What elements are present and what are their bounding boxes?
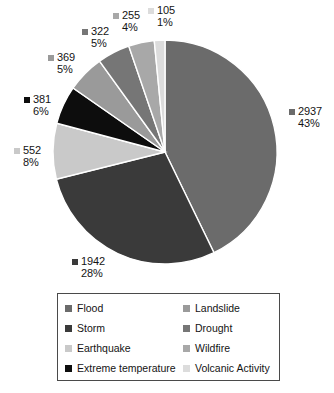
- slice-label-swatch-drought: [82, 29, 88, 35]
- slice-value-earthquake: 552: [23, 145, 41, 157]
- legend-item[interactable]: Flood: [65, 302, 183, 314]
- legend-swatch-icon: [65, 345, 72, 352]
- slice-percent-drought: 5%: [91, 38, 109, 50]
- slice-label-volcanic-activity: 105 1%: [148, 5, 175, 28]
- slice-label-swatch-volcanic-activity: [148, 8, 154, 14]
- chart-legend: FloodLandslideStormDroughtEarthquakeWild…: [57, 293, 280, 381]
- legend-swatch-icon: [183, 365, 190, 372]
- legend-item[interactable]: Volcanic Activity: [183, 362, 288, 374]
- slice-percent-landslide: 5%: [57, 64, 75, 76]
- slice-percent-flood: 43%: [298, 118, 322, 130]
- slice-label-swatch-wildfire: [113, 13, 119, 19]
- slice-label-drought: 322 5%: [82, 26, 109, 49]
- slice-label-landslide: 369 5%: [48, 52, 75, 75]
- slice-label-swatch-extreme-temperature: [24, 97, 30, 103]
- legend-item[interactable]: Earthquake: [65, 342, 183, 354]
- legend-item[interactable]: Drought: [183, 322, 288, 334]
- slice-value-flood: 2937: [298, 106, 322, 118]
- legend-item-label: Earthquake: [77, 342, 131, 354]
- slice-label-extreme-temperature: 381 6%: [24, 94, 51, 117]
- legend-item-label: Landslide: [195, 302, 240, 314]
- slice-percent-volcanic-activity: 1%: [157, 17, 175, 29]
- legend-swatch-icon: [65, 305, 72, 312]
- slice-label-wildfire: 255 4%: [113, 10, 140, 33]
- legend-item-label: Extreme temperature: [77, 362, 176, 374]
- slice-percent-earthquake: 8%: [23, 157, 41, 169]
- slice-value-extreme-temperature: 381: [33, 94, 51, 106]
- slice-value-landslide: 369: [57, 52, 75, 64]
- legend-item[interactable]: Storm: [65, 322, 183, 334]
- slice-value-storm: 1942: [81, 256, 105, 268]
- legend-item[interactable]: Wildfire: [183, 342, 288, 354]
- legend-swatch-icon: [65, 365, 72, 372]
- legend-item-label: Wildfire: [195, 342, 230, 354]
- slice-percent-storm: 28%: [81, 268, 105, 280]
- legend-swatch-icon: [183, 325, 190, 332]
- legend-item-label: Drought: [195, 322, 232, 334]
- slice-label-swatch-landslide: [48, 55, 54, 61]
- slice-value-drought: 322: [91, 26, 109, 38]
- slice-value-wildfire: 255: [122, 10, 140, 22]
- pie-slice-group: [53, 40, 277, 264]
- pie-chart-graphic: [0, 0, 334, 290]
- legend-item[interactable]: Landslide: [183, 302, 288, 314]
- legend-item-label: Flood: [77, 302, 103, 314]
- slice-percent-wildfire: 4%: [122, 22, 140, 34]
- slice-label-swatch-flood: [289, 109, 295, 115]
- legend-swatch-icon: [183, 305, 190, 312]
- slice-label-flood: 2937 43%: [289, 106, 322, 129]
- legend-item[interactable]: Extreme temperature: [65, 362, 183, 374]
- legend-item-label: Storm: [77, 322, 105, 334]
- pie-chart-area: 2937 43% 1942 28% 552 8% 381 6% 369 5%: [0, 0, 334, 290]
- legend-swatch-icon: [183, 345, 190, 352]
- slice-label-storm: 1942 28%: [72, 256, 105, 279]
- legend-grid: FloodLandslideStormDroughtEarthquakeWild…: [58, 298, 279, 378]
- legend-swatch-icon: [65, 325, 72, 332]
- slice-label-swatch-earthquake: [14, 148, 20, 154]
- slice-label-earthquake: 552 8%: [14, 145, 41, 168]
- slice-value-volcanic-activity: 105: [157, 5, 175, 17]
- slice-label-swatch-storm: [72, 259, 78, 265]
- legend-item-label: Volcanic Activity: [195, 362, 270, 374]
- slice-percent-extreme-temperature: 6%: [33, 106, 51, 118]
